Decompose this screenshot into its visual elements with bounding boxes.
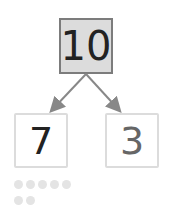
dot <box>38 180 47 189</box>
dot <box>26 196 35 205</box>
part-right: 3 <box>120 119 144 163</box>
dots-row-2 <box>14 196 35 205</box>
arrow-left-icon <box>52 74 86 110</box>
part-left: 7 <box>29 119 53 163</box>
part-box-left: 7 <box>14 113 68 168</box>
arrow-right-icon <box>86 74 119 110</box>
dot <box>14 196 23 205</box>
dots-row-1 <box>14 180 71 189</box>
dot <box>62 180 71 189</box>
dot <box>26 180 35 189</box>
dot <box>50 180 59 189</box>
dot <box>14 180 23 189</box>
part-box-right: 3 <box>105 113 159 168</box>
